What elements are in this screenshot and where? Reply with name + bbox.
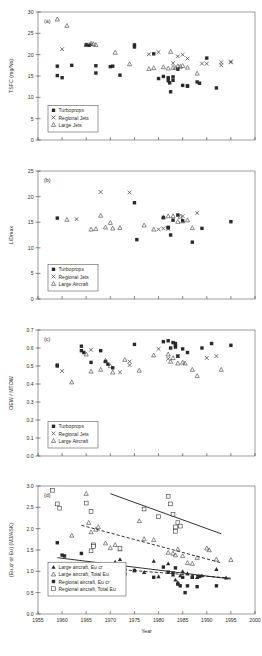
x-tick-label: 1975 — [129, 617, 140, 623]
data-point — [118, 73, 121, 76]
data-point — [195, 374, 199, 378]
data-point — [63, 554, 66, 557]
y-tick-label: 0.5 — [26, 590, 33, 596]
y-tick-label: 10 — [28, 245, 34, 251]
data-point — [174, 529, 178, 533]
data-point — [152, 559, 156, 563]
data-point — [108, 221, 112, 225]
data-point — [128, 62, 132, 66]
y-tick-label: 0.3 — [26, 399, 33, 405]
data-point — [198, 575, 201, 578]
y-tick-label: 3.0 — [26, 483, 33, 489]
data-point — [135, 238, 138, 241]
data-point — [147, 52, 151, 56]
y-tick-label: 0.0 — [26, 453, 33, 459]
data-point — [94, 227, 98, 231]
data-point — [205, 356, 209, 360]
data-point — [171, 79, 174, 82]
data-point — [157, 347, 161, 351]
data-point — [214, 567, 218, 571]
data-point — [191, 576, 194, 579]
data-point — [99, 190, 103, 194]
data-point — [60, 369, 64, 373]
y-tick-label: 0.5 — [26, 363, 33, 369]
legend-item: Large aircraft, Eu cr — [51, 564, 102, 570]
data-point — [152, 576, 155, 579]
data-point — [219, 63, 223, 67]
data-point — [89, 348, 93, 352]
data-point — [156, 574, 160, 578]
data-point — [183, 591, 186, 594]
data-point — [147, 67, 151, 71]
y-axis-label: (Eu,cr or Eu) (MJ/ASK) — [8, 523, 14, 577]
data-point — [70, 64, 73, 67]
data-point — [181, 360, 185, 364]
data-point — [161, 226, 165, 230]
data-point — [169, 502, 173, 506]
data-point — [56, 363, 59, 366]
legend-label: Regional Jets — [59, 274, 90, 280]
data-point — [80, 552, 83, 555]
data-point — [157, 515, 161, 519]
data-point — [123, 358, 127, 362]
y-tick-label: 0.6 — [26, 345, 33, 351]
data-point — [152, 227, 156, 231]
data-point — [111, 370, 115, 374]
y-tick-label: 1.0 — [26, 568, 33, 574]
data-point — [70, 380, 74, 384]
data-point — [51, 488, 55, 492]
data-point — [166, 550, 170, 554]
data-point — [176, 54, 180, 58]
plot-area-c: 0.00.10.20.30.40.50.60.7OEW / MTOW(c)Tur… — [0, 322, 262, 478]
data-point — [174, 566, 177, 569]
data-point — [99, 349, 102, 352]
data-point — [171, 356, 175, 360]
data-point — [133, 343, 136, 346]
data-point — [181, 53, 185, 57]
data-point — [70, 533, 74, 537]
data-point — [229, 220, 232, 223]
data-point — [108, 546, 112, 550]
legend-label: Large Aircraft — [59, 438, 89, 444]
data-point — [55, 502, 59, 506]
plot-area-b: 0510152025L/Dmax(b)TurbopropsRegional Je… — [0, 163, 262, 321]
x-axis-label: Year — [141, 628, 152, 634]
data-point — [185, 65, 189, 69]
legend-item: Large aircraft, Total Eu — [51, 571, 109, 577]
data-point — [181, 554, 185, 558]
data-point — [52, 580, 55, 583]
data-point — [174, 345, 177, 348]
y-tick-label: 2.5 — [26, 504, 33, 510]
data-point — [55, 17, 59, 21]
data-point — [128, 191, 132, 195]
data-point — [190, 561, 194, 565]
series-turboprops — [56, 43, 219, 93]
data-point — [169, 49, 173, 53]
plot-area-d: 0.00.51.01.52.02.53.01955196019651970197… — [0, 478, 262, 656]
data-point — [190, 226, 194, 230]
data-point — [190, 367, 194, 371]
x-tick-label: 1985 — [177, 617, 188, 623]
data-point — [195, 585, 198, 588]
data-point — [166, 352, 170, 356]
data-point — [166, 66, 170, 70]
x-tick-label: 1990 — [201, 617, 212, 623]
data-point — [142, 223, 146, 227]
data-point — [137, 368, 141, 372]
data-point — [176, 361, 180, 365]
data-point — [89, 510, 93, 514]
data-point — [80, 345, 83, 348]
series-regional-jets — [75, 190, 199, 231]
data-point — [111, 64, 114, 67]
data-point — [56, 541, 59, 544]
data-point — [89, 549, 93, 553]
data-point — [195, 211, 199, 215]
data-point — [89, 369, 93, 373]
data-point — [137, 519, 141, 523]
series-large-aircraft — [65, 213, 195, 231]
data-point — [118, 370, 122, 374]
data-point — [128, 363, 132, 367]
data-point — [162, 565, 165, 568]
data-point — [169, 233, 172, 236]
data-point — [169, 346, 172, 349]
